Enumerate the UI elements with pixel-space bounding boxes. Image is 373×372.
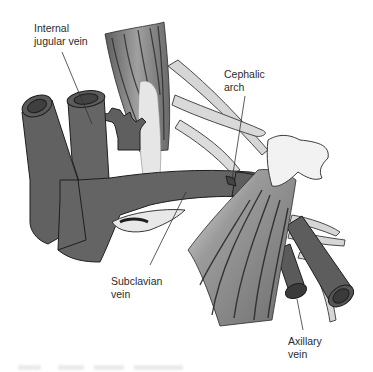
label-internal-jugular-vein: Internal jugular vein [34, 22, 88, 47]
label-subclavian-vein: Subclavian vein [111, 275, 162, 300]
faded-caption [18, 365, 183, 370]
label-axillary-vein: Axillary vein [288, 335, 322, 360]
tendon [138, 81, 161, 176]
veins [19, 88, 358, 311]
muscle-bundle-upper [105, 22, 170, 176]
shoulder-venous-anatomy-diagram [0, 0, 373, 372]
coracoid-process [267, 135, 328, 186]
label-cephalic-arch: Cephalic arch [224, 68, 265, 93]
leader-axillary [297, 299, 303, 330]
